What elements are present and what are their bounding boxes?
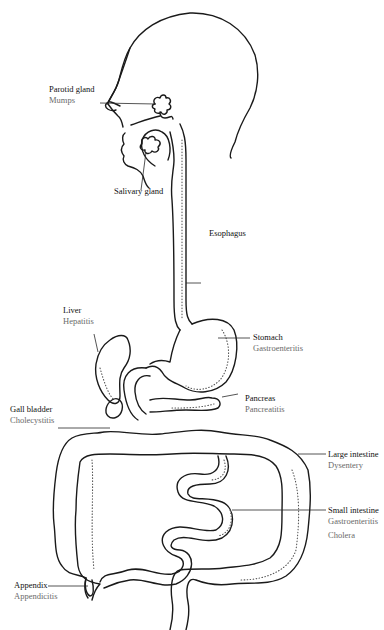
organ-name: Salivary gland	[114, 186, 163, 196]
face-outline	[108, 48, 130, 127]
organ-name: Small intestine	[328, 505, 379, 515]
parotid-gland	[152, 95, 173, 119]
organ-name: Appendix	[14, 580, 48, 590]
pharynx-outline	[142, 130, 170, 166]
organ-name: Liver	[63, 305, 81, 315]
disease-name: Gastroenteritis	[328, 516, 379, 527]
disease-name-2: Cholera	[328, 530, 379, 541]
head-outline	[106, 13, 258, 158]
label-small-intestine: Small intestine Gastroenteritis Cholera	[328, 505, 379, 541]
label-salivary-gland: Salivary gland	[114, 186, 163, 197]
label-large-intestine: Large intestine Dysentery	[328, 449, 379, 470]
organ-name: Large intestine	[328, 449, 379, 459]
duodenum	[124, 368, 150, 420]
disease-name: Appendicitis	[14, 591, 57, 602]
disease-name: Hepatitis	[63, 316, 94, 327]
label-appendix: Appendix Appendicitis	[14, 580, 57, 601]
disease-name: Cholecystitis	[10, 415, 54, 426]
stomach	[146, 319, 237, 392]
organ-name: Gall bladder	[10, 404, 52, 414]
disease-name: Gastroenteritis	[253, 343, 303, 354]
mouth-line	[131, 116, 160, 125]
organ-name: Esophagus	[209, 228, 246, 238]
organ-name: Stomach	[253, 332, 283, 342]
disease-name: Pancreatitis	[245, 404, 285, 415]
organ-name: Parotid gland	[49, 84, 95, 94]
disease-name: Mumps	[49, 95, 95, 106]
label-gall-bladder: Gall bladder Cholecystitis	[10, 404, 54, 425]
label-liver: Liver Hepatitis	[63, 305, 94, 326]
organ-name: Pancreas	[245, 393, 275, 403]
label-esophagus: Esophagus	[209, 228, 246, 239]
gall-bladder	[106, 399, 122, 418]
label-stomach: Stomach Gastroenteritis	[253, 332, 303, 353]
pancreas	[150, 397, 220, 412]
label-parotid-gland: Parotid gland Mumps	[49, 84, 95, 105]
esophagus-left	[170, 132, 180, 330]
label-pancreas: Pancreas Pancreatitis	[245, 393, 285, 414]
disease-name: Dysentery	[328, 460, 379, 471]
